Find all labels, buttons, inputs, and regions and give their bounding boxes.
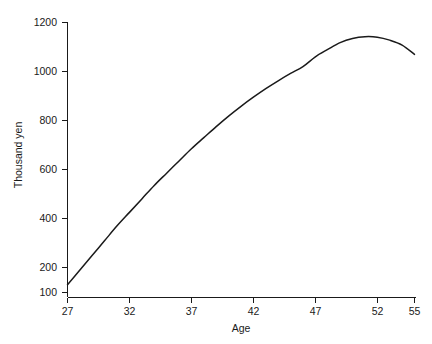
plot-area — [68, 37, 415, 285]
y-axis-ticks — [62, 23, 68, 293]
chart-figure: 1200 1000 800 600 400 200 100 Thousand y… — [0, 0, 432, 344]
x-axis: 27 32 37 42 47 52 55 Age — [62, 298, 421, 335]
y-tick-label-600: 600 — [39, 163, 57, 175]
y-axis-title: Thousand yen — [12, 122, 24, 189]
x-tick-label-32: 32 — [124, 305, 136, 317]
y-axis: 1200 1000 800 600 400 200 100 Thousand y… — [12, 16, 68, 298]
x-tick-label-27: 27 — [62, 305, 74, 317]
x-axis-title: Age — [232, 322, 251, 334]
y-tick-label-200: 200 — [39, 261, 57, 273]
y-tick-label-1200: 1200 — [34, 16, 58, 28]
age-earnings-line-chart: 1200 1000 800 600 400 200 100 Thousand y… — [0, 0, 432, 344]
y-tick-label-800: 800 — [39, 114, 57, 126]
x-tick-label-47: 47 — [310, 305, 322, 317]
line-series-age-earnings — [68, 37, 415, 285]
x-axis-ticks — [68, 298, 415, 304]
x-tick-label-52: 52 — [372, 305, 384, 317]
y-tick-label-1000: 1000 — [34, 65, 58, 77]
x-tick-label-37: 37 — [186, 305, 198, 317]
x-tick-label-42: 42 — [248, 305, 260, 317]
y-tick-label-100: 100 — [39, 286, 57, 298]
x-tick-label-55: 55 — [409, 305, 421, 317]
y-tick-label-400: 400 — [39, 212, 57, 224]
